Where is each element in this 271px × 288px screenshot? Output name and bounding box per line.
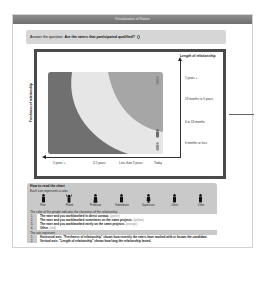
x-tick: Today [154, 161, 162, 165]
legend-item-other: Other [190, 194, 212, 207]
legend-icons-row: Peer Friend Professor Subordinate Superv… [30, 193, 214, 207]
legend-label: Professor [90, 204, 101, 207]
legend-item-client: Client [164, 194, 186, 207]
y-tick: 18 months to 5 years [185, 97, 213, 101]
legend-title: How to read the chart [30, 184, 214, 188]
color-list: 1.The rater and you work/worked in direc… [27, 214, 217, 230]
person-client-icon [172, 194, 177, 203]
person-professor-icon [93, 194, 98, 203]
legend-item-friend: Friend [58, 194, 80, 207]
window-title: Visualization of Raters [13, 15, 252, 24]
x-tick: 3-5 years [93, 161, 106, 165]
x-tick: 5 years + [53, 161, 65, 165]
legend-label: Other [198, 204, 205, 207]
chart-plot-area [48, 72, 163, 154]
axis-list-item: 2.Vertical axis: "Length of relationship… [27, 239, 217, 243]
person-friend-icon [66, 194, 72, 203]
legend-label: Friend [66, 204, 73, 207]
help-circle-icon[interactable] [137, 35, 141, 39]
person-supervisor-icon [146, 194, 151, 203]
rater-person-icon[interactable] [155, 76, 160, 85]
axis-list: 1.Horizontal axis: "Freshness of relatio… [27, 235, 217, 243]
person-peer-icon [41, 194, 46, 203]
legend-header: How to read the chart Each icon represen… [27, 183, 217, 209]
x-axis-title: Freshness of relationship [29, 83, 33, 122]
rater-person-icon[interactable] [155, 129, 160, 138]
legend-item-supervisor: Supervisor [137, 194, 159, 207]
question-bar: Answer the question: Are the raters that… [26, 30, 226, 44]
y-axis-line [180, 60, 181, 158]
person-other-icon [198, 194, 203, 203]
legend-label: Client [171, 204, 178, 207]
legend-item-subordinate: Subordinate [111, 194, 133, 207]
y-tick: 6 to 18 months [185, 120, 205, 124]
app-window: Visualization of Raters Answer the quest… [12, 14, 253, 248]
y-axis-title: Length of relationship [180, 54, 216, 58]
legend-panel: How to read the chart Each icon represen… [27, 183, 217, 245]
rater-person-icon[interactable] [155, 142, 160, 151]
chart-frame: Length of relationship 5 years + 18 mont… [34, 49, 226, 179]
question-text: Are the raters that participated qualifi… [65, 35, 135, 39]
legend-label: Subordinate [115, 204, 129, 207]
legend-label: Peer [40, 204, 45, 207]
legend-item-peer: Peer [32, 194, 54, 207]
x-tick: Less than 3 years [119, 161, 143, 165]
y-tick: 5 years + [185, 76, 197, 80]
x-axis-arrow-icon [42, 155, 46, 159]
question-prefix: Answer the question: [30, 35, 64, 39]
legend-label: Supervisor [142, 204, 154, 207]
legend-item-professor: Professor [85, 194, 107, 207]
person-subordinate-icon [119, 194, 124, 203]
connector-line [229, 114, 254, 115]
x-axis-line [45, 157, 181, 158]
y-tick: 6 months or less [185, 141, 207, 145]
chart-bands [48, 72, 163, 154]
